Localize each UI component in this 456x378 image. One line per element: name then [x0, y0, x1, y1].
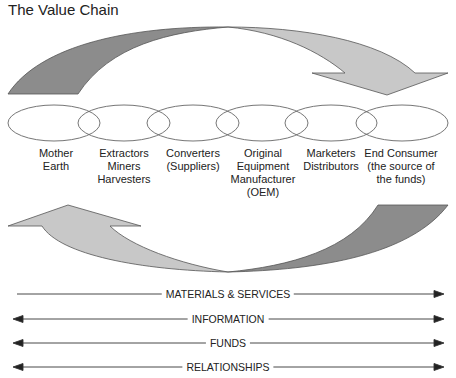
bottom-arrow-light-segment [8, 205, 228, 272]
flow-label-materials-services: MATERIALS & SERVICES [162, 288, 294, 300]
top-arrow-dark-segment [8, 27, 228, 94]
arrowhead-right-icon [434, 291, 444, 298]
ellipse-marketers [285, 105, 377, 141]
arrowhead-left-icon [13, 316, 23, 323]
stage-label-end-consumer: End Consumer (the source of the funds) [356, 147, 446, 186]
flow-label-relationships: RELATIONSHIPS [182, 361, 273, 373]
bottom-arrow-dark-segment [228, 205, 448, 272]
ellipse-extractors [78, 105, 170, 141]
ellipse-oem [216, 105, 308, 141]
arrowhead-right-icon [434, 340, 444, 347]
flow-label-information: INFORMATION [188, 313, 269, 325]
ellipse-mother-earth [8, 105, 100, 141]
arrowhead-right-icon [434, 316, 444, 323]
arrowhead-right-icon [434, 364, 444, 371]
ellipse-end-consumer [356, 105, 448, 141]
ellipse-converters [147, 105, 239, 141]
arrowhead-left-icon [13, 340, 23, 347]
flow-label-funds: FUNDS [206, 337, 250, 349]
arrowhead-left-icon [13, 364, 23, 371]
stage-ellipses [8, 105, 448, 141]
top-arrow-light-segment [228, 27, 448, 95]
